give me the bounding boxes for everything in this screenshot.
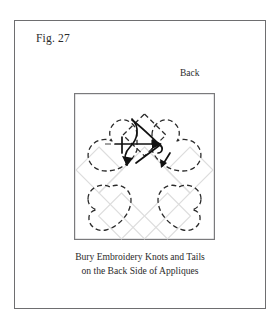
figure-number-label: Fig. 27 xyxy=(36,32,70,44)
quilt-block-diagram xyxy=(74,93,215,240)
figure-caption: Bury Embroidery Knots and Tails on the B… xyxy=(14,250,266,278)
back-orientation-label: Back xyxy=(180,68,200,78)
caption-line-2: on the Back Side of Appliques xyxy=(14,264,266,278)
caption-line-1: Bury Embroidery Knots and Tails xyxy=(14,250,266,264)
block-border xyxy=(75,94,215,240)
